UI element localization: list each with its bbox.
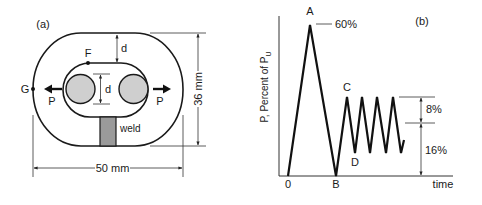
gap-thickness-label: d	[121, 42, 127, 54]
lower-annotation: 16%	[425, 144, 447, 156]
gap-thickness-dimension: d	[117, 35, 127, 62]
upper-annotation: 8%	[426, 103, 442, 115]
origin-label: 0	[285, 178, 291, 190]
height-dimension-label: 36 mm	[192, 72, 204, 106]
weld-region	[100, 117, 116, 146]
right-load-label: P	[156, 95, 163, 107]
figure-canvas: (a) weld d d F G	[0, 0, 482, 205]
x-axis-label: time	[433, 178, 454, 190]
peak-annotation: 60%	[335, 18, 357, 30]
figure-a-chain-link: (a) weld d d F G	[21, 18, 206, 177]
right-load-arrow-icon	[153, 85, 171, 94]
left-pin	[66, 75, 95, 104]
width-dimension-label: 50 mm	[96, 162, 130, 174]
pin-diameter-label: d	[105, 83, 111, 95]
right-pin	[119, 75, 148, 104]
figure-b-label: (b)	[415, 15, 428, 27]
figure-b-load-history-chart: (b) P, Percent of PU 0 B time A C D 60% …	[259, 5, 453, 190]
left-load-label: P	[48, 95, 55, 107]
left-load-arrow-icon	[44, 85, 62, 94]
weld-label: weld	[119, 123, 141, 134]
load-history-curve	[288, 25, 404, 176]
point-f-marker	[86, 61, 90, 65]
cyclic-load-dimensions: 8% 16%	[399, 97, 447, 175]
point-g-marker	[31, 87, 35, 91]
point-g-label: G	[21, 83, 30, 95]
point-c-label: C	[343, 81, 351, 93]
pin-diameter-dimension: d	[93, 74, 111, 104]
point-a-label: A	[306, 5, 314, 17]
point-f-label: F	[85, 47, 92, 59]
y-axis-label: P, Percent of PU	[259, 51, 272, 122]
figure-a-label: (a)	[36, 18, 49, 30]
point-d-label: D	[351, 156, 359, 168]
point-b-label: B	[332, 178, 339, 190]
